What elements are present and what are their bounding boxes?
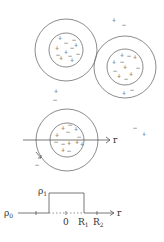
positive-charge: + [54,44,59,51]
zero-label: 0 [63,217,69,227]
negative-charge: − [132,124,137,131]
positive-charge: + [128,70,133,77]
positive-charge: + [53,87,58,94]
positive-charge: + [73,125,78,132]
negative-charge: − [75,50,80,57]
positive-charge: + [58,54,63,61]
positive-charge: + [121,89,126,96]
negative-charge: − [67,121,72,128]
positive-charge: + [119,51,124,58]
particle-top-right: +−++−+−−++−+− [94,36,156,98]
positive-charge: + [122,63,127,70]
positive-charge: + [69,56,74,63]
positive-charge: + [111,58,116,65]
negative-charge: − [63,39,68,46]
positive-charge: + [54,131,59,138]
negative-charge: − [71,36,76,43]
positive-charge: + [132,53,137,60]
negative-charge: − [53,138,58,145]
positive-charge: + [111,16,116,23]
rho0-label: ρ0 [4,208,13,219]
density-graph: ρ0 ρ1 0 R1 R2 r [4,186,122,228]
r1-label: R1 [78,217,89,228]
negative-charge: − [135,64,140,71]
rho1-label: ρ1 [38,186,47,197]
graph-axis-label: r [117,208,122,218]
positive-charge: + [60,146,65,153]
negative-charge: − [34,161,39,168]
negative-charge: − [129,86,134,93]
particle-top-left: +−++−+−+−+−− [35,19,97,81]
negative-charge: − [126,52,131,59]
negative-charge: − [52,96,57,103]
positive-charge: + [116,72,121,79]
r2-label: R2 [93,217,104,228]
positive-charge: + [66,139,71,146]
negative-charge: − [121,21,126,28]
negative-charge: − [66,147,71,154]
positive-charge: + [79,140,84,147]
negative-charge: − [65,128,70,135]
negative-charge: − [123,75,128,82]
charge-distribution-diagram: +−++−+−+−+−−+−++−+−−++−+−+−+−+−−−++++− +… [0,0,164,242]
positive-charge: + [141,130,146,137]
r-axis-label: r [113,135,118,145]
positive-charge: + [57,34,62,41]
